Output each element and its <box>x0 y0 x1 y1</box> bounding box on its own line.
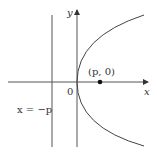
parabola-curve <box>77 15 144 146</box>
focus-point <box>98 80 103 85</box>
origin-label: 0 <box>67 86 73 97</box>
parabola-diagram: y x 0 (p, 0) x = −p <box>0 0 157 159</box>
y-axis-label: y <box>66 7 73 18</box>
x-axis-label: x <box>144 86 150 97</box>
directrix-label: x = −p <box>17 104 52 115</box>
focus-label: (p, 0) <box>88 66 115 77</box>
